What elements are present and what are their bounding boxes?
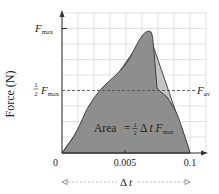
svg-text:2: 2 (133, 129, 136, 136)
svg-text:Fmax: Fmax (40, 84, 60, 97)
impulse-diagram: Force (N) Fmax 1 2 Fmax Fav Area = 1 2 Δ… (0, 0, 219, 194)
half-fmax-label: 1 2 Fmax (34, 81, 60, 98)
svg-text:Δt: Δt (120, 176, 133, 188)
half-num: 1 (34, 81, 38, 89)
fmax-label: Fmax (34, 22, 54, 35)
half-den: 2 (34, 90, 38, 98)
fmax-sub: max (42, 28, 54, 35)
svg-text:Area: Area (94, 122, 116, 134)
x-tick-01: 0.1 (184, 157, 197, 168)
svg-text:1: 1 (133, 121, 136, 128)
delta-t-indicator: Δt (62, 176, 190, 188)
area-annotation: Area = 1 2 ΔtFmax (94, 121, 175, 136)
x-tick-0: 0 (53, 157, 58, 168)
y-axis-label: Force (N) (3, 71, 17, 118)
svg-text:=: = (124, 122, 131, 134)
x-tick-0005: 0.005 (114, 157, 137, 168)
fav-label: Fav (196, 84, 210, 97)
